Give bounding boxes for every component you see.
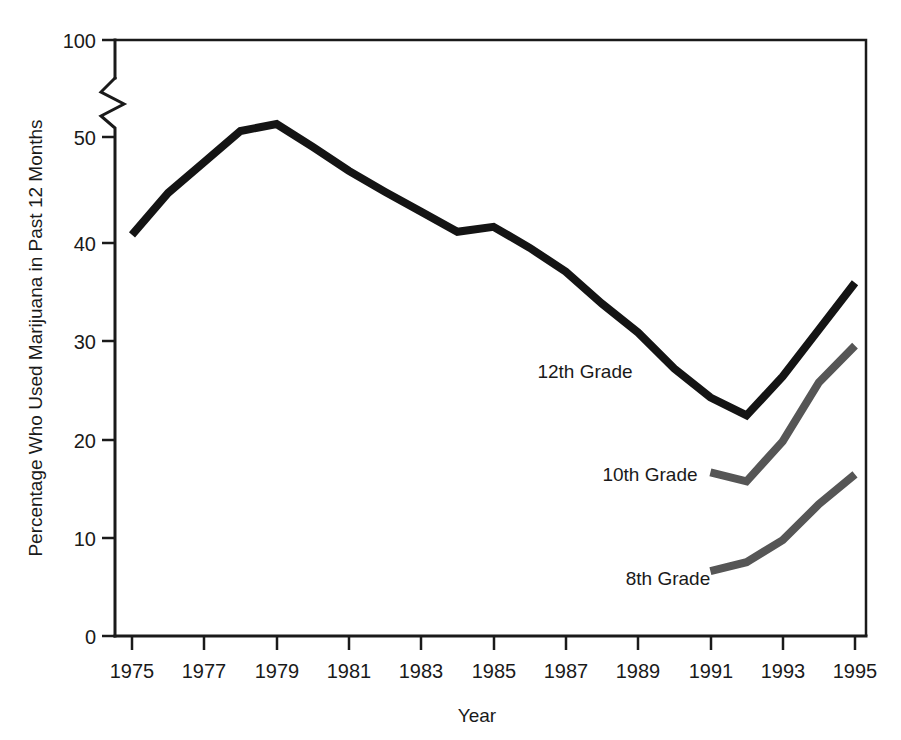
x-axis-title: Year bbox=[458, 705, 497, 726]
x-tick-label-1975: 1975 bbox=[110, 660, 155, 682]
series-label-12th-grade: 12th Grade bbox=[537, 361, 632, 382]
y-tick-label-50: 50 bbox=[74, 127, 96, 149]
y-tick-label-30: 30 bbox=[74, 331, 96, 353]
x-tick-label-1985: 1985 bbox=[472, 660, 517, 682]
y-tick-labels: 100 50 40 30 20 10 0 bbox=[63, 30, 96, 648]
series-line-8th-grade bbox=[710, 474, 855, 571]
y-axis-break-zigzag bbox=[101, 78, 124, 636]
series-label-10th-grade: 10th Grade bbox=[602, 464, 697, 485]
y-tick-label-100: 100 bbox=[63, 30, 96, 52]
x-tick-label-1983: 1983 bbox=[399, 660, 444, 682]
x-tick-label-1995: 1995 bbox=[833, 660, 878, 682]
y-tick-label-40: 40 bbox=[74, 233, 96, 255]
frame-top-right bbox=[115, 40, 866, 636]
series-annotations: 12th Grade 10th Grade 8th Grade bbox=[537, 361, 710, 589]
marijuana-use-line-chart: 100 50 40 30 20 10 0 1975 1977 1979 bbox=[0, 0, 901, 740]
x-tick-label-1987: 1987 bbox=[544, 660, 589, 682]
chart-container: 100 50 40 30 20 10 0 1975 1977 1979 bbox=[0, 0, 901, 740]
series-label-8th-grade: 8th Grade bbox=[626, 568, 711, 589]
series-line-10th-grade bbox=[710, 346, 855, 482]
data-series-group bbox=[132, 124, 855, 571]
y-tick-marks bbox=[102, 40, 115, 636]
series-line-12th-grade bbox=[132, 124, 855, 415]
x-tick-marks-major bbox=[132, 636, 855, 650]
y-tick-label-20: 20 bbox=[74, 430, 96, 452]
x-tick-label-1991: 1991 bbox=[689, 660, 734, 682]
x-tick-label-1993: 1993 bbox=[761, 660, 806, 682]
y-tick-label-10: 10 bbox=[74, 528, 96, 550]
plot-frame bbox=[115, 40, 866, 636]
x-tick-label-1979: 1979 bbox=[255, 660, 300, 682]
y-axis bbox=[101, 40, 124, 636]
y-tick-label-0: 0 bbox=[85, 626, 96, 648]
x-tick-label-1989: 1989 bbox=[616, 660, 661, 682]
x-tick-label-1981: 1981 bbox=[327, 660, 372, 682]
x-tick-label-1977: 1977 bbox=[182, 660, 227, 682]
y-axis-title: Percentage Who Used Marijuana in Past 12… bbox=[25, 119, 46, 556]
x-tick-labels: 1975 1977 1979 1981 1983 1985 1987 1989 … bbox=[110, 660, 878, 682]
